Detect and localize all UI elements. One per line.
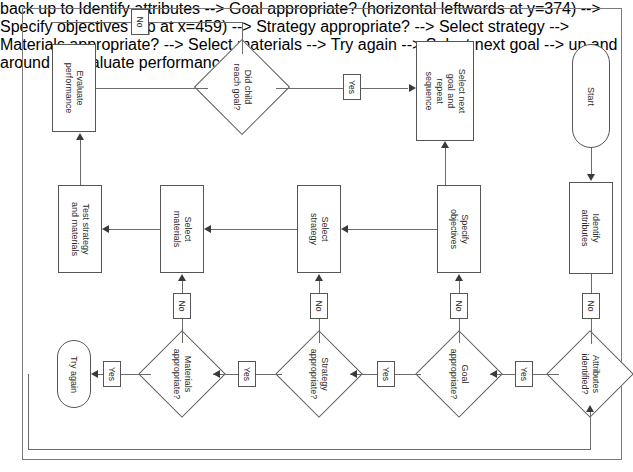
edge-attr-yes-right xyxy=(533,374,559,375)
edge-start-to-identify xyxy=(591,148,592,174)
edge-strategy-to-materials-arrow xyxy=(204,225,211,233)
node-start: Start xyxy=(572,44,610,148)
edge-specify-to-next-goal-riser xyxy=(445,148,446,185)
node-materials-appropriate-label: Materials appropriate? xyxy=(171,349,193,400)
node-specify-objectives-label: Specify objectives xyxy=(448,209,470,249)
edge-materials-to-test xyxy=(106,229,160,230)
edge-strategy-no-upper xyxy=(319,281,320,293)
edge-label-attributes-no-text: No xyxy=(586,301,596,312)
node-try-again-label: Try again xyxy=(69,355,80,392)
edge-materials-yes-arrow xyxy=(91,370,98,378)
figure-page: Figure 16.1.A flow chart for selecting a… xyxy=(0,0,633,472)
edge-strategy-yes-arrow xyxy=(213,370,220,378)
node-did-child-reach-goal-label: Did child reach goal? xyxy=(231,63,253,110)
node-strategy-appropriate-label: Strategy appropriate? xyxy=(308,349,330,400)
edge-bottom-feedback-arrow xyxy=(586,405,594,412)
edge-specify-to-next-goal-arrow xyxy=(441,141,449,148)
node-evaluate-performance-label: Evaluate performance xyxy=(63,63,85,114)
edge-label-goal-no: No xyxy=(450,293,468,319)
edge-label-reach-goal-no-text: No xyxy=(135,17,145,28)
node-test-strategy-and-materials-label: Test strategy and materials xyxy=(69,202,91,256)
edge-goal-no-lower xyxy=(459,319,460,343)
edge-materials-no-upper xyxy=(182,281,183,293)
edge-test-to-evaluate-arrow xyxy=(76,133,84,140)
edge-evaluate-to-reach-q xyxy=(96,88,208,89)
edge-label-materials-yes: Yes xyxy=(103,361,121,387)
node-select-strategy: Select strategy xyxy=(297,185,341,273)
edge-strategy-no-arrow xyxy=(315,274,323,281)
edge-label-goal-yes: Yes xyxy=(377,361,395,387)
node-try-again: Try again xyxy=(57,340,91,408)
edge-label-strategy-yes: Yes xyxy=(238,361,256,387)
edge-materials-to-test-arrow xyxy=(102,225,109,233)
node-select-next-goal: Select next goal and repeat sequence xyxy=(416,41,474,141)
edge-specify-to-strategy xyxy=(345,229,437,230)
edge-reach-no-riser xyxy=(242,22,243,54)
node-evaluate-performance: Evaluate performance xyxy=(52,44,96,132)
node-start-label: Start xyxy=(586,86,597,105)
edge-label-goal-yes-text: Yes xyxy=(381,367,391,381)
edge-label-reach-goal-no: No xyxy=(131,9,149,35)
edge-specify-to-strategy-arrow xyxy=(341,225,348,233)
edge-label-strategy-no: No xyxy=(310,293,328,319)
edge-label-strategy-no-text: No xyxy=(314,301,324,312)
edge-goal-no-arrow xyxy=(455,274,463,281)
edge-reach-no-top-left xyxy=(51,22,131,23)
edge-label-materials-yes-text: Yes xyxy=(107,367,117,381)
edge-strategy-no-lower xyxy=(319,319,320,343)
edge-reach-yes-left xyxy=(276,88,343,89)
node-select-materials-label: Select materials xyxy=(171,211,193,248)
edge-strategy-yes-right xyxy=(256,374,282,375)
node-goal-appropriate-label: Goal appropriate? xyxy=(448,349,470,400)
edge-label-materials-no: No xyxy=(173,293,191,319)
edge-goal-no-upper xyxy=(459,281,460,293)
edge-reach-yes-right xyxy=(361,88,408,89)
node-select-next-goal-label: Select next goal and repeat sequence xyxy=(423,69,467,114)
node-identify-attributes-label: Identify attributes xyxy=(580,209,602,246)
edge-label-goal-no-text: No xyxy=(454,301,464,312)
edge-label-materials-no-text: No xyxy=(177,301,187,312)
edge-materials-no-lower xyxy=(182,319,183,343)
edge-materials-no-arrow xyxy=(178,274,186,281)
edge-goal-yes-arrow xyxy=(350,370,357,378)
node-identify-attributes: Identify attributes xyxy=(569,182,613,274)
edge-reach-no-top-right xyxy=(149,22,242,23)
edge-test-to-evaluate xyxy=(80,140,81,185)
edge-attr-yes-arrow xyxy=(490,370,497,378)
edge-label-attributes-yes: Yes xyxy=(515,361,533,387)
edge-label-attributes-no: No xyxy=(582,293,600,319)
edge-bottom-feedback-riser xyxy=(590,412,591,449)
edge-materials-yes-right xyxy=(121,374,151,375)
node-specify-objectives: Specify objectives xyxy=(437,185,481,273)
edge-label-reach-goal-yes-text: Yes xyxy=(347,80,357,94)
edge-reach-yes-arrow xyxy=(409,84,416,92)
edge-label-strategy-yes-text: Yes xyxy=(242,367,252,381)
edge-label-reach-goal-yes: Yes xyxy=(343,74,361,100)
node-select-materials: Select materials xyxy=(160,185,204,273)
edge-try-again-drop xyxy=(28,374,29,449)
edge-start-to-identify-arrow xyxy=(587,174,595,181)
edge-goal-yes-right xyxy=(395,374,421,375)
node-test-strategy-and-materials: Test strategy and materials xyxy=(58,185,102,273)
edge-bottom-feedback xyxy=(28,449,591,450)
edge-label-attributes-yes-text: Yes xyxy=(519,367,529,381)
node-select-strategy-label: Select strategy xyxy=(308,213,330,245)
node-attributes-identified-label: Attributes identified? xyxy=(579,353,601,394)
edge-strategy-to-materials xyxy=(208,229,297,230)
